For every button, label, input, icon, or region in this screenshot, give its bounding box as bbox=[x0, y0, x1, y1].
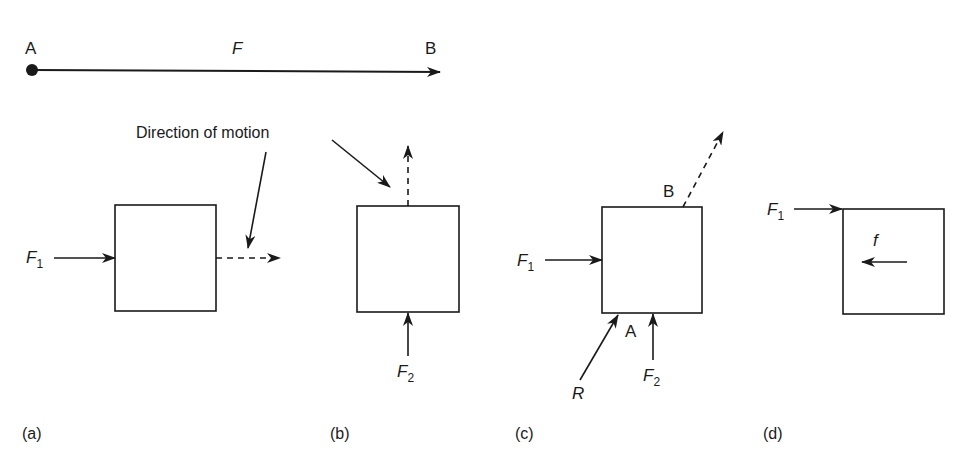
motion-arrow-c bbox=[683, 132, 723, 207]
force-f1-label-a: F1 bbox=[26, 249, 43, 266]
panel-d-caption: (d) bbox=[763, 426, 783, 442]
panel-c bbox=[545, 132, 723, 380]
force-subscript: 2 bbox=[653, 375, 660, 389]
force-name: F bbox=[767, 200, 777, 219]
panel-c-caption: (c) bbox=[515, 426, 534, 442]
point-b-label: B bbox=[425, 40, 436, 57]
panel-b bbox=[357, 146, 459, 356]
direction-of-motion-pointers bbox=[248, 140, 390, 248]
force-diagram-canvas bbox=[0, 0, 964, 459]
force-f2-label-b: F2 bbox=[397, 363, 414, 380]
block-a bbox=[115, 205, 216, 311]
force-f-label: F bbox=[232, 40, 242, 57]
force-subscript: 1 bbox=[777, 209, 784, 223]
force-name: F bbox=[397, 362, 407, 381]
friction-f-label-d: f bbox=[873, 232, 878, 249]
force-name: F bbox=[643, 366, 653, 385]
force-subscript: 1 bbox=[527, 260, 534, 274]
panel-a-caption: (a) bbox=[22, 426, 42, 442]
point-a-label: A bbox=[25, 40, 36, 57]
pointer-arrow-b bbox=[332, 140, 390, 187]
force-f1-label-c: F1 bbox=[517, 252, 534, 269]
vector-f-arrow bbox=[32, 70, 440, 72]
direction-of-motion-label: Direction of motion bbox=[136, 125, 269, 141]
point-a-label-c: A bbox=[625, 323, 636, 340]
block-c bbox=[602, 207, 702, 313]
force-r-label-c: R bbox=[572, 385, 584, 402]
pointer-arrow-a bbox=[248, 152, 266, 248]
force-name: F bbox=[517, 251, 527, 270]
top-force-vector bbox=[26, 64, 440, 76]
force-r-arrow-c bbox=[580, 315, 618, 380]
point-b-label-c: B bbox=[663, 183, 674, 200]
force-f1-label-d: F1 bbox=[767, 201, 784, 218]
force-name: F bbox=[26, 248, 36, 267]
force-subscript: 2 bbox=[407, 371, 414, 385]
force-subscript: 1 bbox=[36, 257, 43, 271]
panel-a bbox=[54, 205, 280, 311]
force-f2-label-c: F2 bbox=[643, 367, 660, 384]
block-b bbox=[357, 206, 459, 312]
panel-b-caption: (b) bbox=[330, 426, 350, 442]
panel-d bbox=[794, 209, 944, 314]
